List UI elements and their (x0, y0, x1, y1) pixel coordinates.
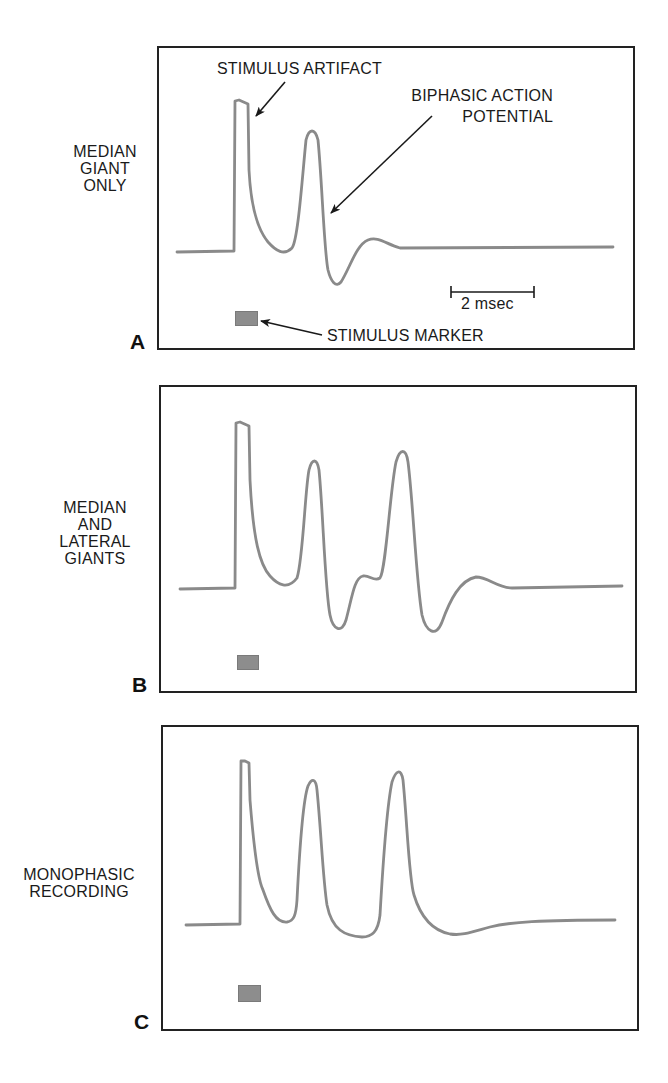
label-line: MEDIAN (40, 499, 150, 516)
stimulus-marker-c (238, 985, 261, 1002)
panel-c-label: MONOPHASIC RECORDING (5, 866, 153, 900)
stimulus-marker-label: STIMULUS MARKER (327, 327, 484, 345)
panel-b-frame (159, 385, 637, 693)
biphasic-label-line1: BIPHASIC ACTION (373, 87, 553, 105)
panel-letter-c: C (134, 1010, 149, 1034)
label-line: RECORDING (5, 883, 153, 900)
stimulus-marker-b (237, 655, 259, 670)
panel-c-frame (161, 725, 639, 1031)
label-line: GIANTS (40, 550, 150, 567)
panel-b-label: MEDIAN AND LATERAL GIANTS (40, 499, 150, 567)
label-line: LATERAL (40, 533, 150, 550)
label-line: AND (40, 516, 150, 533)
label-line: GIANT (55, 160, 155, 177)
stimulus-artifact-label: STIMULUS ARTIFACT (217, 60, 382, 78)
neural-recording-figure: MEDIAN GIANT ONLY MEDIAN AND LATERAL GIA… (0, 0, 668, 1083)
stimulus-marker-a (235, 311, 258, 326)
label-line: MONOPHASIC (5, 866, 153, 883)
panel-letter-a: A (130, 330, 145, 354)
biphasic-label-line2: POTENTIAL (373, 108, 553, 126)
panel-letter-b: B (132, 673, 147, 697)
panel-a-label: MEDIAN GIANT ONLY (55, 143, 155, 194)
label-line: ONLY (55, 177, 155, 194)
label-line: MEDIAN (55, 143, 155, 160)
scale-bar-label: 2 msec (461, 295, 514, 313)
